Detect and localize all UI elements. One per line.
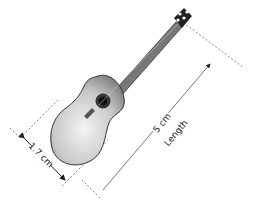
dimension-guides [10,20,244,198]
guitar-diagram: 1.7 cm 5 cm Length [0,0,255,212]
length-dimension: 5 cm Length [103,64,210,190]
